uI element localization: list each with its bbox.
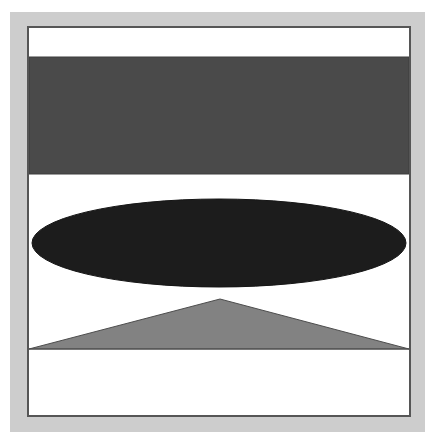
figure-root bbox=[0, 0, 439, 446]
ellipse-flat bbox=[32, 199, 406, 287]
plate-canvas bbox=[29, 28, 409, 415]
triangle-low bbox=[29, 299, 409, 349]
rectangle-band bbox=[29, 57, 409, 174]
plate-frame bbox=[27, 26, 411, 417]
